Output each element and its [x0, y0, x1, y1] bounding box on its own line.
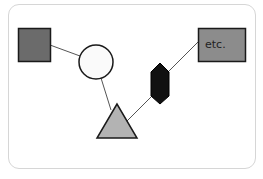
triangle-node: [97, 104, 137, 138]
edge-circle-triangle: [101, 78, 111, 110]
square-node: [19, 29, 51, 62]
etc-label: etc.: [205, 38, 226, 51]
edge-square-circle: [50, 45, 80, 56]
edge-triangle-hexagon: [127, 96, 152, 121]
hexagon-node: [151, 63, 169, 104]
diagram-canvas: etc.: [0, 0, 263, 179]
circle-node: [79, 45, 113, 79]
edge-hexagon-etc: [168, 42, 198, 72]
